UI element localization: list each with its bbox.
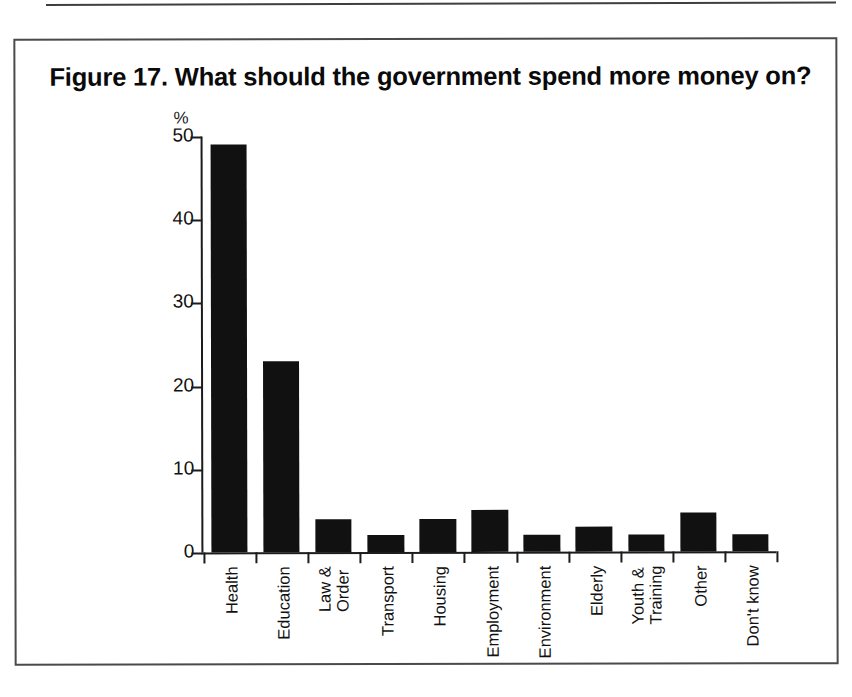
x-axis-tick-mark: [360, 552, 362, 563]
bar: [210, 145, 247, 553]
x-axis-category-label: Health: [223, 566, 241, 614]
bar-series: [203, 135, 777, 552]
y-axis-tick-mark: [191, 386, 202, 388]
bar: [315, 519, 352, 552]
bar-slot: [523, 136, 560, 552]
y-axis-ticks: 01020304050: [156, 127, 776, 128]
bar-chart-plot-area: % 01020304050 HealthEducationLaw & Order…: [156, 127, 777, 598]
y-axis-tick-mark: [191, 469, 202, 471]
x-axis-category-labels: HealthEducationLaw & OrderTransportHousi…: [156, 127, 776, 128]
bar: [524, 535, 560, 552]
bar: [420, 519, 457, 552]
bar: [263, 361, 300, 552]
x-axis-category-label: Education: [276, 566, 294, 639]
bar-slot: [471, 136, 508, 552]
x-axis-tick-mark: [776, 551, 778, 562]
y-axis-tick-mark: [191, 220, 202, 222]
x-axis-tick-mark: [464, 552, 466, 563]
x-axis-category-label: Don't know: [744, 565, 762, 646]
bar: [732, 535, 768, 552]
x-axis-category-label: Housing: [432, 566, 450, 627]
x-axis-category-label: Environment: [536, 566, 554, 659]
x-axis-tick-mark: [516, 552, 518, 563]
x-axis-tick-mark: [724, 551, 726, 562]
x-axis-category-label: Transport: [380, 566, 398, 636]
x-axis-category-label: Employment: [484, 566, 502, 658]
bar-slot: [210, 136, 247, 552]
x-axis-tick-mark: [620, 552, 622, 563]
x-axis-tick-mark: [412, 552, 414, 563]
bar: [628, 535, 664, 552]
x-axis-category-label: Youth & Training: [629, 566, 664, 625]
x-axis-tick-mark: [255, 552, 257, 563]
y-axis-tick-label: 0: [184, 540, 195, 562]
bar-slot: [419, 136, 456, 552]
bar-slot: [315, 136, 352, 552]
y-axis-tick-mark: [191, 552, 202, 554]
x-axis-category-label: Other: [692, 565, 710, 606]
y-axis-tick-mark: [191, 136, 202, 138]
bar-slot: [679, 135, 716, 551]
y-axis-tick-mark: [191, 303, 202, 305]
x-axis-category-label: Elderly: [588, 566, 606, 616]
bar: [680, 512, 717, 551]
x-axis-tick-mark: [203, 552, 205, 563]
figure-frame: Figure 17. What should the government sp…: [13, 37, 838, 666]
bar-slot: [367, 136, 404, 552]
x-axis-tick-mark: [672, 551, 674, 562]
bar-slot: [731, 135, 768, 551]
x-axis-category-label: Law & Order: [317, 566, 352, 612]
bar-slot: [262, 136, 299, 552]
bar-slot: [575, 136, 612, 552]
bar-slot: [627, 136, 664, 552]
bar: [576, 527, 613, 552]
page-top-rule: [46, 2, 836, 6]
x-axis-tick-mark: [308, 552, 310, 563]
bar: [472, 510, 509, 552]
x-axis-tick-mark: [568, 552, 570, 563]
bar: [367, 535, 403, 552]
figure-title: Figure 17. What should the government sp…: [49, 61, 811, 92]
